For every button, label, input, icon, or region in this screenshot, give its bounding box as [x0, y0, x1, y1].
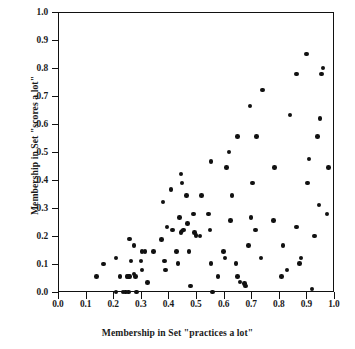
y-tick-mark	[52, 40, 59, 41]
y-tick-mark	[52, 96, 59, 97]
x-tick-mark	[168, 292, 169, 299]
x-axis-title: Membership in Set "practices a lot"	[0, 327, 355, 338]
y-tick-mark	[52, 264, 59, 265]
x-tick-mark	[196, 292, 197, 299]
x-tick-mark	[306, 292, 307, 299]
y-tick-mark	[52, 180, 59, 181]
y-tick-mark	[52, 12, 59, 13]
y-tick-mark	[52, 68, 59, 69]
x-tick-mark	[86, 292, 87, 299]
y-axis-title: Membership in Set "scores a lot"	[29, 26, 40, 266]
x-tick-mark	[279, 292, 280, 299]
y-tick-mark	[52, 152, 59, 153]
y-tick-label: 0.0	[8, 288, 48, 297]
y-tick-mark	[52, 236, 59, 237]
x-tick-mark	[58, 292, 59, 299]
x-tick-label: 1.0	[314, 300, 354, 309]
y-tick-label: 1.0	[8, 8, 48, 17]
x-tick-mark	[224, 292, 225, 299]
x-tick-mark	[113, 292, 114, 299]
plot-area-frame	[58, 12, 334, 292]
x-tick-mark	[251, 292, 252, 299]
y-tick-mark	[52, 124, 59, 125]
y-tick-mark	[52, 208, 59, 209]
scatter-plot-figure: 1.0 0.9 0.8 0.7 0.6 0.5 0.4 0.3 0.2 0.1 …	[0, 0, 355, 349]
x-tick-mark	[334, 292, 335, 299]
x-tick-mark	[141, 292, 142, 299]
